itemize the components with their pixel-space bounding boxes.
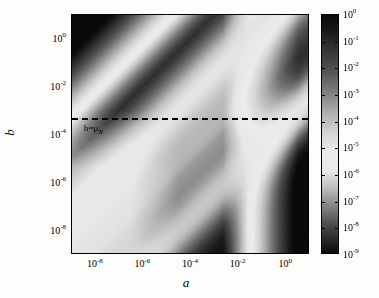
x-tick-mark xyxy=(239,253,240,254)
colorbar-tick-mark xyxy=(335,202,338,203)
tick-exponent: -7 xyxy=(353,194,359,202)
colorbar-tick-mark xyxy=(322,122,325,123)
colorbar-tick-mark xyxy=(335,228,338,229)
colorbar-tick-label: 10-5 xyxy=(343,142,359,153)
colorbar-tick-mark xyxy=(322,175,325,176)
y-tick-label: 10-6 xyxy=(50,176,66,187)
mu-annotation-text: b=μ xyxy=(84,123,98,133)
heatmap-image xyxy=(72,15,308,253)
colorbar-tick-mark xyxy=(322,228,325,229)
colorbar-tick-mark xyxy=(335,95,338,96)
tick-exponent: -3 xyxy=(353,87,359,95)
colorbar-tick-mark xyxy=(322,148,325,149)
y-tick-mark xyxy=(71,231,72,232)
y-tick-label: 100 xyxy=(53,32,67,43)
colorbar-tick-label: 10-9 xyxy=(343,248,359,259)
colorbar-tick-mark xyxy=(335,148,338,149)
tick-exponent: -2 xyxy=(60,79,66,87)
tick-exponent: -5 xyxy=(353,141,359,149)
tick-exponent: -4 xyxy=(60,127,66,135)
y-tick-label: 10-4 xyxy=(50,128,66,139)
y-tick-mark xyxy=(71,87,72,88)
tick-exponent: -8 xyxy=(353,221,359,229)
colorbar-tick-label: 10-8 xyxy=(343,222,359,233)
tick-exponent: -2 xyxy=(353,61,359,69)
x-tick-label: 10-6 xyxy=(134,258,150,269)
tick-exponent: -6 xyxy=(144,257,150,265)
y-tick-mark xyxy=(71,135,72,136)
colorbar-gradient xyxy=(322,15,338,253)
tick-exponent: -2 xyxy=(240,257,246,265)
x-tick-label: 10-4 xyxy=(182,258,198,269)
y-axis-label: b xyxy=(3,129,16,136)
tick-exponent: -6 xyxy=(353,167,359,175)
colorbar-tick-label: 10-4 xyxy=(343,115,359,126)
colorbar-tick-mark xyxy=(335,175,338,176)
colorbar-tick-mark xyxy=(335,42,338,43)
colorbar-tick-label: 10-1 xyxy=(343,35,359,46)
x-tick-mark xyxy=(191,253,192,254)
x-tick-mark xyxy=(286,253,287,254)
y-tick-mark xyxy=(71,183,72,184)
x-tick-mark xyxy=(96,253,97,254)
y-tick-label: 10-2 xyxy=(50,80,66,91)
x-tick-label: 100 xyxy=(278,258,292,269)
colorbar-tick-mark xyxy=(322,95,325,96)
tick-exponent: -8 xyxy=(97,257,103,265)
figure-canvas: b b=μN 10010-210-410-610-810-810-610-410… xyxy=(0,0,379,298)
colorbar-tick-mark xyxy=(322,42,325,43)
x-axis-label: a xyxy=(183,276,190,289)
colorbar-tick-label: 10-6 xyxy=(343,168,359,179)
tick-exponent: -1 xyxy=(353,34,359,42)
tick-exponent: 0 xyxy=(63,31,67,39)
x-tick-label: 10-2 xyxy=(230,258,246,269)
mu-annotation-label: b=μN xyxy=(84,124,103,135)
tick-exponent: -4 xyxy=(353,114,359,122)
y-tick-mark xyxy=(71,39,72,40)
y-tick-label: 10-8 xyxy=(50,224,66,235)
tick-exponent: 0 xyxy=(353,7,357,15)
tick-exponent: -4 xyxy=(192,257,198,265)
tick-exponent: 0 xyxy=(288,257,292,265)
mu-annotation-subscript: N xyxy=(98,128,102,135)
colorbar-tick-mark xyxy=(322,15,325,16)
tick-exponent: -6 xyxy=(60,175,66,183)
heatmap-plot-area: b=μN xyxy=(71,14,309,254)
tick-exponent: -8 xyxy=(60,223,66,231)
colorbar-tick-mark xyxy=(322,202,325,203)
colorbar-tick-label: 10-7 xyxy=(343,195,359,206)
colorbar-tick-label: 10-2 xyxy=(343,62,359,73)
x-tick-mark xyxy=(143,253,144,254)
colorbar-tick-mark xyxy=(335,122,338,123)
colorbar-tick-mark xyxy=(322,68,325,69)
x-tick-label: 10-8 xyxy=(87,258,103,269)
tick-exponent: -9 xyxy=(353,247,359,255)
colorbar-tick-mark xyxy=(335,15,338,16)
colorbar xyxy=(321,14,339,254)
colorbar-tick-label: 10-3 xyxy=(343,88,359,99)
colorbar-tick-mark xyxy=(335,68,338,69)
colorbar-tick-label: 100 xyxy=(343,8,357,19)
